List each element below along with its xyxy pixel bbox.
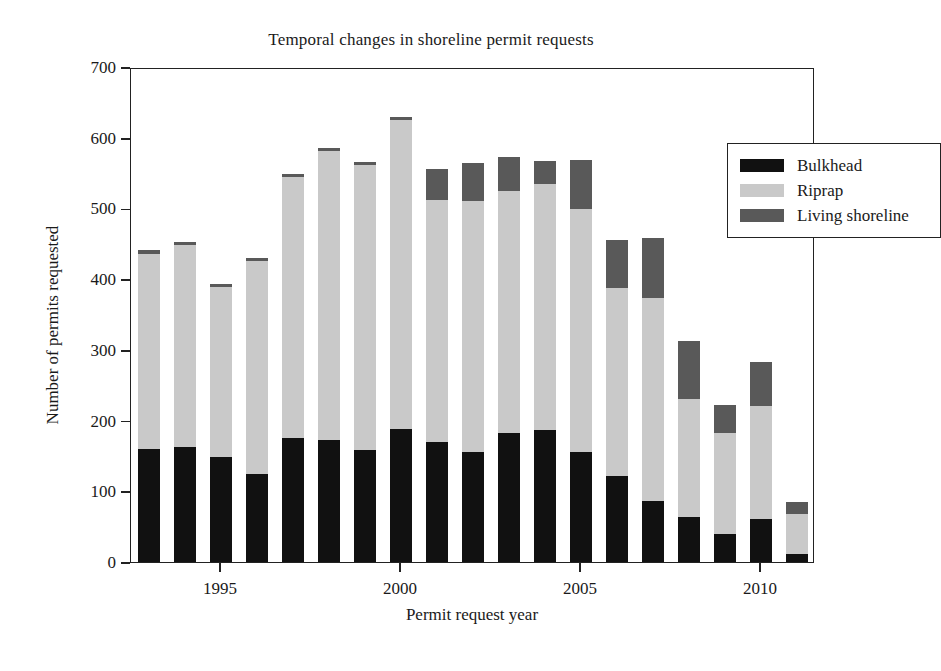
y-axis-tick-mark: [121, 138, 130, 140]
bar-segment-bulkhead: [174, 447, 196, 562]
bar-stack[interactable]: [174, 67, 196, 562]
bar-segment-bulkhead: [498, 433, 520, 562]
bar-stack[interactable]: [678, 67, 700, 562]
bar-segment-riprap: [678, 399, 700, 517]
y-axis-tick: 500: [0, 199, 130, 219]
legend-label-living-shoreline: Living shoreline: [797, 207, 909, 224]
legend-swatch-living-shoreline: [740, 209, 784, 222]
chart-title: Temporal changes in shoreline permit req…: [0, 30, 862, 50]
y-axis-tick: 100: [0, 482, 130, 502]
bar-segment-riprap: [390, 120, 412, 429]
bar-stack[interactable]: [210, 67, 232, 562]
x-axis-tick-label: 1995: [203, 579, 237, 599]
bar-segment-living-shoreline: [318, 148, 340, 151]
bar-segment-riprap: [534, 184, 556, 429]
bar-segment-bulkhead: [570, 452, 592, 562]
y-axis-tick-mark: [121, 421, 130, 423]
bar-segment-living-shoreline: [786, 502, 808, 514]
x-axis-label: Permit request year: [130, 605, 814, 625]
bar-stack[interactable]: [570, 67, 592, 562]
bar-segment-bulkhead: [750, 519, 772, 562]
bar-segment-living-shoreline: [498, 157, 520, 191]
bar-segment-riprap: [138, 254, 160, 448]
bar-segment-living-shoreline: [570, 160, 592, 210]
bar-segment-bulkhead: [390, 429, 412, 562]
bar-segment-bulkhead: [534, 430, 556, 562]
bar-stack[interactable]: [606, 67, 628, 562]
bar-segment-riprap: [714, 433, 736, 533]
bar-segment-riprap: [750, 406, 772, 518]
bar-stack[interactable]: [534, 67, 556, 562]
bar-stack[interactable]: [390, 67, 412, 562]
bar-stack[interactable]: [786, 67, 808, 562]
bar-stack[interactable]: [318, 67, 340, 562]
bar-segment-living-shoreline: [210, 284, 232, 287]
bar-segment-living-shoreline: [390, 117, 412, 120]
legend-swatch-bulkhead: [740, 159, 784, 172]
bar-segment-riprap: [498, 191, 520, 434]
bar-segment-riprap: [246, 261, 268, 474]
x-axis-tick-label: 2010: [743, 579, 777, 599]
bar-stack[interactable]: [642, 67, 664, 562]
x-axis-tick-label: 2000: [383, 579, 417, 599]
bar-stack[interactable]: [282, 67, 304, 562]
y-axis-tick: 600: [0, 129, 130, 149]
x-axis-tick-mark: [219, 563, 221, 572]
legend-swatch-riprap: [740, 184, 784, 197]
bar-segment-riprap: [570, 209, 592, 452]
bar-stack[interactable]: [426, 67, 448, 562]
x-axis-tick: 2010: [743, 563, 777, 599]
bar-stack[interactable]: [354, 67, 376, 562]
bar-stack[interactable]: [498, 67, 520, 562]
y-axis-tick: 400: [0, 270, 130, 290]
bar-segment-riprap: [642, 298, 664, 502]
y-axis-tick: 0: [0, 553, 130, 573]
x-axis-tick: 2000: [383, 563, 417, 599]
bar-segment-riprap: [606, 288, 628, 476]
bar-stack[interactable]: [246, 67, 268, 562]
x-axis-tick-mark: [579, 563, 581, 572]
bar-segment-bulkhead: [318, 440, 340, 562]
x-axis-tick-label: 2005: [563, 579, 597, 599]
bar-segment-bulkhead: [642, 501, 664, 562]
bar-segment-riprap: [354, 165, 376, 451]
bar-segment-riprap: [282, 177, 304, 438]
bar-stack[interactable]: [138, 67, 160, 562]
plot-area: Bulkhead Riprap Living shoreline: [130, 68, 814, 563]
bar-stack[interactable]: [462, 67, 484, 562]
legend-item[interactable]: Bulkhead: [740, 153, 930, 178]
y-axis-tick-mark: [121, 279, 130, 281]
bar-segment-living-shoreline: [426, 169, 448, 200]
x-axis-tick: 2005: [563, 563, 597, 599]
bar-segment-bulkhead: [786, 554, 808, 562]
legend-label-bulkhead: Bulkhead: [797, 157, 862, 174]
y-axis-tick-mark: [121, 67, 130, 69]
bar-segment-living-shoreline: [354, 162, 376, 165]
x-axis-tick: 1995: [203, 563, 237, 599]
bar-segment-living-shoreline: [642, 238, 664, 297]
bar-segment-bulkhead: [282, 438, 304, 562]
y-axis-tick: 300: [0, 341, 130, 361]
legend: Bulkhead Riprap Living shoreline: [727, 143, 941, 238]
bar-segment-bulkhead: [426, 442, 448, 562]
bar-segment-bulkhead: [354, 450, 376, 562]
bar-segment-living-shoreline: [714, 405, 736, 433]
bar-stack[interactable]: [750, 67, 772, 562]
y-axis-ticks: 0100200300400500600700: [0, 68, 130, 563]
bar-segment-bulkhead: [138, 449, 160, 562]
bar-segment-living-shoreline: [750, 362, 772, 407]
bar-segment-living-shoreline: [606, 240, 628, 288]
bar-segment-riprap: [426, 200, 448, 442]
bar-segment-riprap: [174, 245, 196, 448]
legend-item[interactable]: Riprap: [740, 178, 930, 203]
bar-segment-riprap: [462, 201, 484, 452]
bar-segment-living-shoreline: [534, 161, 556, 184]
x-axis-tick-mark: [759, 563, 761, 572]
legend-label-riprap: Riprap: [797, 182, 843, 199]
bar-segment-riprap: [318, 151, 340, 440]
bar-stack[interactable]: [714, 67, 736, 562]
bar-segment-riprap: [210, 287, 232, 457]
legend-item[interactable]: Living shoreline: [740, 203, 930, 228]
bar-segment-bulkhead: [210, 457, 232, 562]
bar-segment-bulkhead: [678, 517, 700, 562]
